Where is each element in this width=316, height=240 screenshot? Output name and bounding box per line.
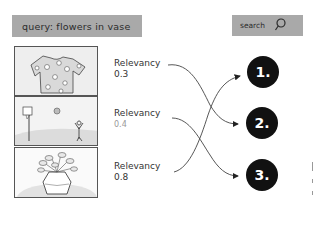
edge-mark (312, 191, 313, 195)
arrow-0.8-to-rank-1 (174, 76, 240, 172)
edge-mark (312, 179, 313, 183)
rank-2-badge: 2. (246, 107, 278, 139)
arrow-0.3-to-rank-2 (168, 65, 238, 124)
rank-label: 1. (255, 64, 270, 80)
rank-3-badge: 3. (246, 159, 278, 191)
rank-1-badge: 1. (247, 56, 279, 88)
rank-label: 3. (254, 167, 269, 183)
edge-mark (312, 162, 313, 171)
rank-label: 2. (254, 115, 269, 131)
